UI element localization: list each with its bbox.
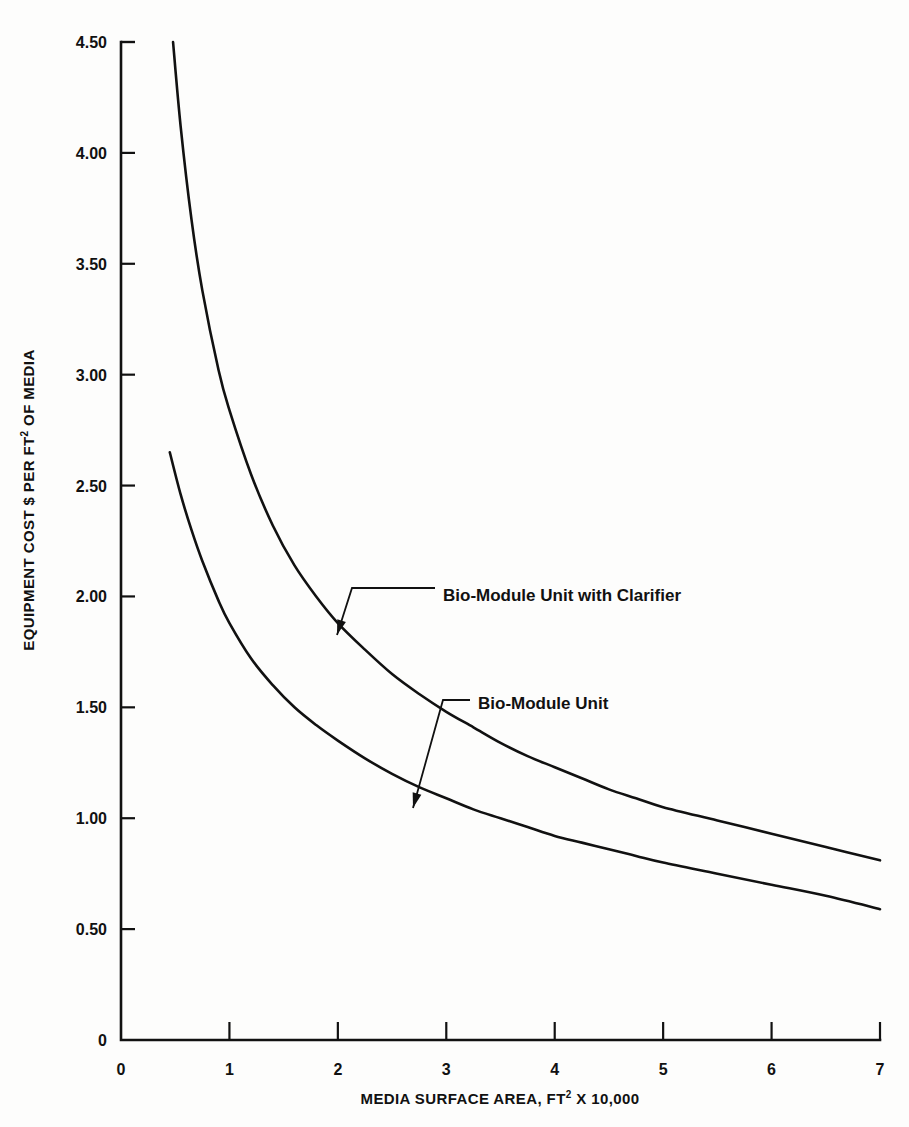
annotation-label: Bio-Module Unit with Clarifier	[443, 586, 681, 605]
annotation-arrowhead	[413, 792, 422, 808]
annotation-label: Bio-Module Unit	[478, 694, 609, 713]
x-tick-label-5: 5	[659, 1061, 668, 1078]
x-axis-tick-labels: 01234567	[117, 1061, 885, 1078]
chart-page: 00.501.001.502.002.503.003.504.004.50 01…	[0, 0, 909, 1127]
annotation-leader-line	[413, 700, 470, 808]
y-tick-label-0: 0	[98, 1032, 107, 1049]
curve-bio-module-unit	[170, 452, 880, 909]
x-tick-label-3: 3	[442, 1061, 451, 1078]
y-tick-label-0.50: 0.50	[76, 921, 107, 938]
y-tick-label-3.00: 3.00	[76, 367, 107, 384]
y-axis-tick-labels: 00.501.001.502.002.503.003.504.004.50	[76, 34, 107, 1049]
curve-bio-module-unit-with-clarifier	[173, 42, 880, 860]
curve-annotations: Bio-Module Unit with ClarifierBio-Module…	[337, 586, 681, 808]
y-tick-label-1.50: 1.50	[76, 699, 107, 716]
y-axis-title: EQUIPMENT COST $ PER FT2 OF MEDIA	[19, 349, 37, 650]
x-tick-label-0: 0	[117, 1061, 126, 1078]
y-tick-label-4.00: 4.00	[76, 145, 107, 162]
x-axis-title: MEDIA SURFACE AREA, FT2 X 10,000	[361, 1089, 640, 1107]
y-axis-ticks	[121, 42, 135, 929]
x-axis-ticks	[229, 1022, 771, 1040]
y-tick-label-2.50: 2.50	[76, 478, 107, 495]
y-tick-label-4.50: 4.50	[76, 34, 107, 51]
data-series-group	[170, 42, 880, 909]
x-tick-label-4: 4	[550, 1061, 559, 1078]
y-tick-label-3.50: 3.50	[76, 256, 107, 273]
equipment-cost-chart: 00.501.001.502.002.503.003.504.004.50 01…	[0, 0, 909, 1127]
x-tick-label-7: 7	[876, 1061, 885, 1078]
annotation-1: Bio-Module Unit	[413, 694, 609, 808]
y-tick-label-1.00: 1.00	[76, 810, 107, 827]
annotation-leader-line	[337, 588, 435, 635]
y-tick-label-2.00: 2.00	[76, 588, 107, 605]
x-tick-label-6: 6	[767, 1061, 776, 1078]
annotation-0: Bio-Module Unit with Clarifier	[337, 586, 681, 635]
x-tick-label-1: 1	[225, 1061, 234, 1078]
axis-lines	[121, 42, 880, 1040]
x-tick-label-2: 2	[333, 1061, 342, 1078]
annotation-arrowhead	[337, 619, 346, 635]
